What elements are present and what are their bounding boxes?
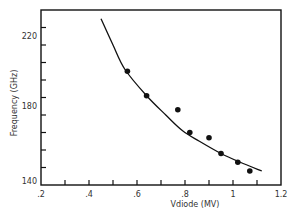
x-axis-label: Vdiode (MV) bbox=[171, 200, 220, 209]
y-axis-ticks bbox=[41, 28, 46, 168]
data-point bbox=[125, 68, 131, 74]
x-axis-ticks bbox=[65, 180, 257, 185]
data-point bbox=[218, 151, 224, 157]
x-tick-label: 1 bbox=[230, 190, 235, 199]
x-axis-tick-labels: .2.4.6.811.2 bbox=[37, 190, 287, 199]
y-tick-label: 180 bbox=[22, 102, 37, 111]
x-tick-label: .2 bbox=[37, 190, 45, 199]
y-axis-label: Frequency (GHz) bbox=[10, 70, 19, 137]
data-point bbox=[247, 168, 253, 174]
data-point bbox=[144, 93, 150, 99]
data-point bbox=[206, 135, 212, 141]
fit-curve bbox=[101, 19, 262, 171]
y-tick-label: 220 bbox=[22, 32, 37, 41]
x-tick-label: .4 bbox=[85, 190, 93, 199]
plot-frame bbox=[41, 10, 281, 185]
data-point bbox=[175, 107, 181, 113]
y-tick-label: 140 bbox=[22, 177, 37, 186]
y-axis-tick-labels: 140180220 bbox=[22, 32, 37, 186]
frequency-vs-vdiode-chart: .2.4.6.811.2 140180220 Vdiode (MV) Frequ… bbox=[0, 0, 290, 217]
x-tick-label: 1.2 bbox=[275, 190, 288, 199]
data-points bbox=[125, 68, 253, 173]
x-tick-label: .6 bbox=[133, 190, 141, 199]
data-point bbox=[235, 159, 241, 165]
data-point bbox=[187, 130, 193, 136]
x-tick-label: .8 bbox=[181, 190, 189, 199]
